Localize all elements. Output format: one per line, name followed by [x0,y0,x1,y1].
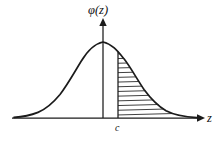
x-axis-arrowhead [197,114,205,122]
y-axis-label: φ(z) [88,3,108,17]
normal-distribution-diagram: φ(z) z c [0,0,221,145]
y-axis-arrowhead [99,18,106,26]
x-axis-label: z [206,111,212,125]
normal-density-curve [14,42,197,118]
y-axis [99,18,106,118]
cut-point-label: c [115,122,120,133]
figure-container: φ(z) z c [0,0,221,145]
